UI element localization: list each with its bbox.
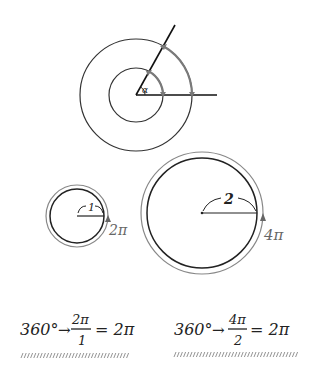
hatch-stroke [24,353,26,358]
small-radius-label: 1 [88,201,95,214]
hatch-stroke [257,352,259,357]
equation-2: 360° → 4π 2 = 2π [174,312,298,357]
hatch-stroke [50,353,52,358]
hatch-stroke [180,352,182,357]
hatch-stroke [75,353,77,358]
equation-1-lhs: 360° [20,320,59,339]
hatch-stroke [248,352,250,357]
hatch-stroke [114,353,116,358]
hatch-stroke [206,352,208,357]
hatch-stroke [203,352,205,357]
hatch-stroke [228,352,230,357]
hatch-stroke [56,353,58,358]
equation-2-denominator: 2 [233,333,242,348]
hatch-stroke [69,353,71,358]
small-circumference-label: 2π [108,222,128,238]
hatch-stroke [241,352,243,357]
equation-1-underline-hatch [21,353,129,358]
hatch-stroke [40,353,42,358]
hatch-stroke [260,352,262,357]
hatch-stroke [187,352,189,357]
large-ring-arrow-icon [260,213,266,221]
hatch-stroke [53,353,55,358]
hatch-stroke [270,352,272,357]
equation-1-rhs: = 2π [95,320,135,339]
hatch-stroke [264,352,266,357]
equation-1-numerator: 2π [71,312,89,327]
equation-2-underline-hatch [174,352,298,357]
hatch-stroke [196,352,198,357]
hatch-stroke [276,352,278,357]
hatch-stroke [200,352,202,357]
hatch-stroke [34,353,36,358]
large-radius-label: 2 [223,191,234,207]
equation-1-denominator: 1 [78,333,86,348]
hatch-stroke [59,353,61,358]
hatch-stroke [37,353,39,358]
hatch-stroke [296,352,298,357]
hatch-stroke [177,352,179,357]
hatch-stroke [254,352,256,357]
equation-1: 360° → 2π 1 = 2π [20,312,135,358]
hatch-stroke [184,352,186,357]
large-circle-diagram: 2 4π [141,152,285,274]
equation-2-lhs: 360° [174,320,213,339]
hatch-stroke [235,352,237,357]
equation-2-arrow: → [212,321,225,339]
radian-diagram: α 1 2π 2 4π 360° → 2π 1 = 2π [0,0,313,385]
hatch-stroke [267,352,269,357]
hatch-stroke [251,352,253,357]
hatch-stroke [47,353,49,358]
outer-arc-length [163,46,192,95]
equation-2-numerator: 4π [228,312,246,327]
hatch-stroke [225,352,227,357]
hatch-stroke [286,352,288,357]
hatch-stroke [63,353,65,358]
hatch-stroke [283,352,285,357]
hatch-stroke [104,353,106,358]
small-circle-diagram: 1 2π [46,185,128,247]
hatch-stroke [117,353,119,358]
hatch-stroke [72,353,74,358]
hatch-stroke [212,352,214,357]
hatch-stroke [219,352,221,357]
large-circumference-label: 4π [263,226,285,244]
hatch-stroke [88,353,90,358]
hatch-stroke [280,352,282,357]
hatch-stroke [95,353,97,358]
hatch-stroke [79,353,81,358]
hatch-stroke [238,352,240,357]
hatch-stroke [216,352,218,357]
hatch-stroke [292,352,294,357]
hatch-stroke [66,353,68,358]
hatch-stroke [123,353,125,358]
hatch-stroke [27,353,29,358]
hatch-stroke [21,353,23,358]
hatch-stroke [174,352,176,357]
large-center-point [201,212,204,215]
hatch-stroke [222,352,224,357]
hatch-stroke [190,352,192,357]
equation-2-rhs: = 2π [250,320,290,339]
hatch-stroke [31,353,33,358]
hatch-stroke [91,353,93,358]
inner-arc-length [149,72,163,96]
hatch-stroke [98,353,100,358]
hatch-stroke [273,352,275,357]
hatch-stroke [85,353,87,358]
hatch-stroke [107,353,109,358]
small-ring-arrow-icon [105,215,111,222]
hatch-stroke [209,352,211,357]
hatch-stroke [289,352,291,357]
angle-label: α [142,85,148,95]
hatch-stroke [82,353,84,358]
hatch-stroke [232,352,234,357]
equation-1-arrow: → [58,321,71,339]
hatch-stroke [43,353,45,358]
hatch-stroke [193,352,195,357]
top-angle-diagram: α [80,25,217,151]
hatch-stroke [244,352,246,357]
hatch-stroke [101,353,103,358]
hatch-stroke [127,353,129,358]
hatch-stroke [120,353,122,358]
